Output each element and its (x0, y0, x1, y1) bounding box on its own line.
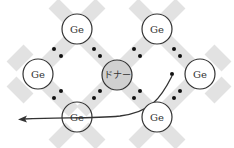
free-electron (170, 72, 174, 76)
atom-mid-right: Ge (185, 59, 215, 89)
svg-text:Ge: Ge (150, 112, 164, 123)
atom-bottom-right: Ge (142, 102, 172, 132)
svg-text:Ge: Ge (193, 69, 207, 80)
svg-text:Ge: Ge (31, 69, 45, 80)
svg-text:Ge: Ge (150, 24, 164, 35)
atom-top-right: Ge (142, 14, 172, 44)
svg-text:Ge: Ge (70, 112, 84, 123)
svg-text:ドナー: ドナー (104, 70, 131, 80)
svg-text:Ge: Ge (70, 24, 84, 35)
lattice-diagram: Ge Ge Ge Ge Ge Ge ドナー (0, 0, 234, 148)
atom-top-left: Ge (62, 14, 92, 44)
atom-mid-left: Ge (23, 59, 53, 89)
donor-atom: ドナー (102, 60, 132, 90)
